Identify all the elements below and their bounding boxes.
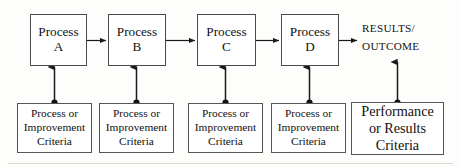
results-outcome-line1: RESULTS/ bbox=[362, 19, 419, 37]
criteria-box-3[interactable]: Process or Improvement Criteria bbox=[188, 103, 263, 153]
criteria-box-1-line1: Process or bbox=[31, 107, 78, 121]
process-box-c[interactable]: Process C bbox=[197, 14, 256, 66]
process-box-a-line1: Process bbox=[38, 25, 78, 40]
criteria-box-5-line1: Performance bbox=[361, 103, 433, 120]
criteria-box-4-line2: Improvement bbox=[278, 121, 339, 135]
criteria-box-2-line1: Process or bbox=[113, 107, 160, 121]
criteria-box-2-line3: Criteria bbox=[119, 135, 154, 149]
process-box-a-line2: A bbox=[54, 40, 64, 55]
diagram-canvas: Process A Process B Process C Process D … bbox=[0, 0, 461, 167]
criteria-box-3-line2: Improvement bbox=[195, 121, 256, 135]
criteria-box-5-line3: Criteria bbox=[376, 137, 419, 154]
criteria-box-2[interactable]: Process or Improvement Criteria bbox=[99, 103, 174, 153]
results-outcome-label: RESULTS/ OUTCOME bbox=[362, 19, 419, 55]
criteria-box-4-line3: Criteria bbox=[291, 135, 326, 149]
criteria-box-2-line2: Improvement bbox=[106, 121, 167, 135]
criteria-box-5-line2: or Results bbox=[369, 120, 426, 137]
criteria-box-4-line1: Process or bbox=[285, 107, 332, 121]
process-box-d-line2: D bbox=[305, 40, 315, 55]
criteria-box-1-line2: Improvement bbox=[24, 121, 85, 135]
process-box-c-line2: C bbox=[222, 40, 231, 55]
process-box-b-line1: Process bbox=[117, 25, 157, 40]
criteria-box-4[interactable]: Process or Improvement Criteria bbox=[271, 103, 346, 153]
process-box-c-line1: Process bbox=[206, 25, 246, 40]
criteria-box-3-line3: Criteria bbox=[208, 135, 243, 149]
process-box-d[interactable]: Process D bbox=[281, 14, 339, 66]
criteria-box-1-line3: Criteria bbox=[37, 135, 72, 149]
process-box-d-line1: Process bbox=[290, 25, 330, 40]
criteria-box-5[interactable]: Performance or Results Criteria bbox=[351, 102, 444, 155]
process-box-b-line2: B bbox=[133, 40, 142, 55]
criteria-box-1[interactable]: Process or Improvement Criteria bbox=[17, 103, 92, 153]
criteria-box-3-line1: Process or bbox=[202, 107, 249, 121]
process-box-a[interactable]: Process A bbox=[30, 14, 87, 66]
process-box-b[interactable]: Process B bbox=[108, 14, 166, 66]
results-outcome-line2: OUTCOME bbox=[362, 37, 419, 55]
page-baseline-rule bbox=[8, 163, 453, 164]
